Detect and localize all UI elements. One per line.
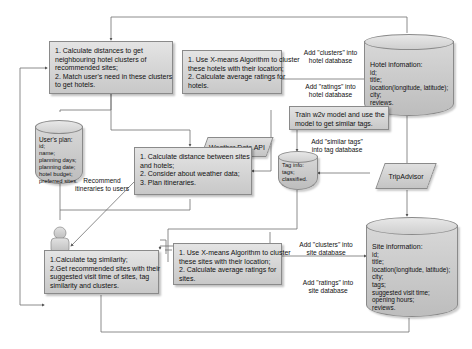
edge-label-line: Add "similar tags"	[301, 138, 373, 146]
db-text-line: User's plan:	[39, 136, 78, 143]
database-hotel-information: Hotel infomation: id; title; location(lo…	[364, 34, 454, 116]
process-train-w2v: Train w2v model and use the model to get…	[289, 106, 389, 130]
db-text-line: location(longitude, latitude);	[372, 266, 450, 274]
edge-label-recommend: Recommend itineraries to users	[70, 177, 134, 193]
process-text-line: these sites with their location;	[179, 258, 276, 267]
db-text-line: city;	[372, 273, 450, 281]
process-text-line: 2. Calculate average ratings for	[188, 73, 276, 82]
process-tag-similarity: 1.Calculate tag similarity; 2.Get recomm…	[44, 250, 159, 294]
process-text-line: to get hotels.	[55, 81, 167, 90]
db-text-line: reviews.	[372, 304, 450, 312]
db-text-line: city;	[370, 91, 448, 99]
process-text-line: suggested visit time of sites, tag	[50, 273, 153, 282]
db-text-line: id;	[370, 69, 448, 77]
edge-label-line: Add "ratings" into	[292, 279, 364, 287]
db-text-line: name;	[39, 150, 78, 157]
process-text-line: 1. Use X-means Algorithm to cluster	[188, 56, 276, 65]
db-text-line: tags;	[372, 281, 450, 289]
db-text-line: planning days;	[39, 157, 78, 164]
process-text-line: 2. Match user's need in these clusters	[55, 73, 167, 82]
db-text-line: suggested visit time;	[372, 289, 450, 297]
db-text-line: location(longitude, latitude);	[370, 84, 448, 92]
process-text-line: 2. Calculate average ratings for	[179, 266, 276, 275]
edge-label-line: site database	[290, 249, 362, 257]
edge-label-line: itineraries to users	[70, 185, 134, 193]
db-text-line: id;	[39, 143, 78, 150]
input-tripadvisor: TripAdvisor	[380, 163, 432, 189]
process-text-line: Train w2v model and use the	[295, 111, 383, 120]
process-text-line: 1. Use X-means Algorithm to cluster	[179, 249, 276, 258]
db-text-line: id;	[372, 251, 450, 259]
edge-label-line: Recommend	[70, 177, 134, 185]
db-text-line: Tag info:	[282, 162, 307, 169]
db-text-line: planning date;	[39, 164, 78, 171]
database-tag-info: Tag info: tags; classified.	[278, 151, 318, 190]
process-text-line: 1. Calculate distances to get	[55, 47, 167, 56]
edge-label-site-ratings: Add "ratings" into site database	[292, 279, 364, 295]
process-match-hotel-clusters: 1. Calculate distances to get neighbouri…	[49, 41, 173, 94]
process-text-line: 1. Calculate distance between sites	[140, 153, 246, 162]
database-site-information: Site information: id; title; location(lo…	[366, 217, 458, 317]
database-user-plan: User's plan: id; name; planning days; pl…	[35, 120, 83, 184]
process-text-line: sites.	[179, 275, 276, 284]
edge-label-line: Add "clusters" into	[290, 241, 362, 249]
edge-label-line: hotel database	[293, 91, 368, 99]
edge-label-line: hotel database	[293, 57, 368, 65]
process-text-line: model to get similar tags.	[295, 120, 383, 129]
process-text-line: recommended sites;	[55, 64, 167, 73]
process-text-line: 2. Consider about weather data;	[140, 170, 246, 179]
edge-label-site-clusters: Add "clusters" into site database	[290, 241, 362, 257]
db-text-line: opening hours;	[372, 296, 450, 304]
process-text-line: these hotels with their location;	[188, 65, 276, 74]
process-plan-itineraries: 1. Calculate distance between sites and …	[134, 147, 252, 195]
process-text-line: hotels.	[188, 82, 276, 91]
input-label: TripAdvisor	[388, 173, 423, 180]
process-text-line: 2.Get recommended sites with their	[50, 265, 153, 274]
process-text-line: 3. Plan itineraries.	[140, 179, 246, 188]
process-text-line: and hotels;	[140, 162, 246, 171]
edge-label-line: site database	[292, 287, 364, 295]
process-text-line: neighbouring hotel clusters of	[55, 56, 167, 65]
db-text-line: classified.	[282, 176, 307, 183]
process-cluster-hotels: 1. Use X-means Algorithm to cluster thes…	[182, 50, 282, 94]
edge-label-hotel-ratings: Add "ratings" into hotel database	[293, 83, 368, 99]
edge-label-line: Add "clusters" into	[293, 49, 368, 57]
db-text-line: title;	[372, 258, 450, 266]
db-text-line: Hotel infomation:	[370, 61, 448, 69]
db-text-line: Site information:	[372, 243, 450, 251]
db-text-line: tags;	[282, 169, 307, 176]
process-text-line: similarity and clusters.	[50, 282, 153, 291]
db-text-line: title;	[370, 76, 448, 84]
process-text-line: 1.Calculate tag similarity;	[50, 256, 153, 265]
process-cluster-sites: 1. Use X-means Algorithm to cluster thes…	[173, 243, 282, 285]
edge-label-line: Add "ratings" into	[293, 83, 368, 91]
edge-label-hotel-clusters: Add "clusters" into hotel database	[293, 49, 368, 65]
flowchart-canvas: 1. Calculate distances to get neighbouri…	[0, 0, 472, 349]
